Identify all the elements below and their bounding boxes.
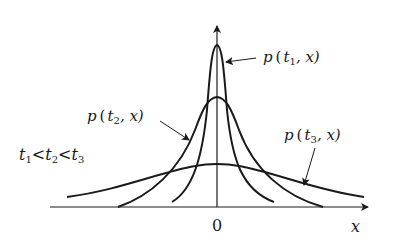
diagram-svg: p(t1, x) p(t2, x) p(t3, x) t1<t2<t3 0 x — [0, 0, 394, 244]
curve-p-t1 — [172, 45, 274, 202]
curve-p-t2 — [118, 97, 323, 207]
label-p-t2-x: p(t2, x) — [87, 107, 144, 126]
leader-arrow-t2 — [160, 121, 189, 140]
label-time-order: t1<t2<t3 — [19, 145, 84, 165]
label-p-t3-x: p(t3, x) — [284, 126, 341, 145]
label-p-t1-x: p(t1, x) — [263, 48, 320, 67]
curve-p-t3 — [67, 164, 364, 197]
label-origin: 0 — [212, 216, 222, 235]
leader-arrow-t1 — [226, 58, 256, 62]
leader-arrow-t3 — [304, 148, 315, 185]
diffusion-density-diagram: p(t1, x) p(t2, x) p(t3, x) t1<t2<t3 0 x — [0, 0, 394, 244]
label-x-axis: x — [351, 217, 360, 236]
